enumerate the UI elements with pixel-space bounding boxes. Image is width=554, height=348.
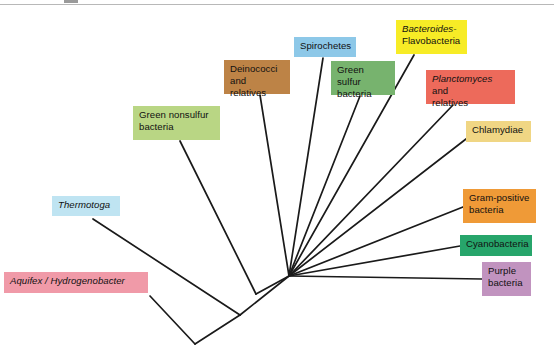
branch-hub-to-gram-positive: [289, 207, 463, 276]
taxon-label-green-sulfur: Green sulfur bacteria: [331, 61, 395, 95]
taxon-label-text: Green sulfur bacteria: [337, 64, 372, 99]
taxon-label-deinococci: Deinococci and relatives: [224, 60, 290, 94]
taxon-label-text: Gram-positive bacteria: [469, 192, 529, 215]
taxon-label-text: Cyanobacteria: [466, 238, 529, 249]
taxon-label-text: Green nonsulfur bacteria: [139, 109, 209, 132]
phylogenetic-tree-figure: Aquifex / HydrogenobacterThermotogaGreen…: [0, 0, 554, 348]
branch-hub-to-purple: [289, 276, 482, 279]
branch-thermo-node-to-thermotoga: [93, 219, 240, 315]
taxon-label-text: Thermotoga: [58, 199, 110, 210]
taxon-label-cyanobacteria: Cyanobacteria: [460, 235, 532, 256]
taxon-label-text: Flavobacteria: [402, 35, 460, 46]
taxon-label-thermotoga: Thermotoga: [52, 196, 120, 216]
branch-hub-to-spirochetes: [289, 58, 323, 276]
taxon-label-green-nonsulfur: Green nonsulfur bacteria: [133, 106, 220, 140]
branch-hub-to-deinococci: [260, 95, 289, 276]
branch-nonsulfur-node-to-green-nonsulfur: [180, 141, 256, 294]
branch-hub-to-thermo-node: [240, 276, 289, 315]
taxon-label-text: and relatives: [432, 85, 468, 108]
taxon-label-text: Bacteroides-: [402, 23, 456, 34]
taxon-label-spirochetes: Spirochetes: [294, 37, 356, 57]
taxon-label-gram-positive: Gram-positive bacteria: [463, 189, 536, 223]
taxon-label-chlamydiae: Chlamydiae: [466, 121, 531, 142]
branch-hub-to-cyanobacteria: [289, 246, 460, 276]
taxon-label-text: Spirochetes: [300, 40, 351, 51]
taxon-label-text: Planctomyces: [432, 73, 492, 84]
taxon-label-text: Deinococci and relatives: [230, 63, 277, 98]
taxon-label-text: Aquifex / Hydrogenobacter: [10, 275, 125, 286]
taxon-label-bacteroides: Bacteroides- Flavobacteria: [396, 20, 467, 54]
tree-branches: [0, 0, 554, 348]
branch-hub-to-nonsulfur-node: [256, 276, 289, 294]
taxon-label-text: Purple bacteria: [488, 265, 523, 288]
branch-thermo-node-to-deep-fork: [195, 315, 240, 344]
branch-deep-fork-to-aquifex: [150, 296, 195, 344]
taxon-label-purple: Purple bacteria: [482, 262, 531, 296]
taxon-label-text: Chlamydiae: [472, 124, 523, 135]
taxon-label-planctomyces: Planctomyces and relatives: [426, 70, 515, 104]
taxon-label-aquifex: Aquifex / Hydrogenobacter: [4, 272, 148, 293]
